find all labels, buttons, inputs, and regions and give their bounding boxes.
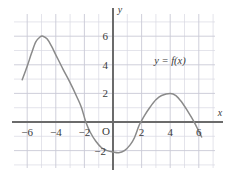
x-tick-label-4: 4 [167,126,173,138]
axis-lines [12,8,223,170]
graph-figure: −6−4−2246642−2Oyxy = f(x) [0,0,229,176]
y-axis-name: y [117,4,123,15]
x-tick-label--2: −2 [79,126,91,138]
function-graph-plot: −6−4−2246642−2Oyxy = f(x) [0,0,229,176]
y-tick-label-4: 4 [103,59,109,71]
axis-tick-labels: −6−4−2246642−2Oyxy = f(x) [21,4,222,157]
x-axis-name: x [217,107,223,118]
y-tick-label--2: −2 [94,145,106,157]
x-tick-label-2: 2 [139,126,145,138]
x-tick-label--4: −4 [50,126,62,138]
y-tick-label-6: 6 [103,30,109,42]
x-tick-label-6: 6 [196,126,202,138]
x-tick-label--6: −6 [21,126,33,138]
y-tick-label-2: 2 [103,87,109,99]
function-equation-label: y = f(x) [153,55,186,67]
origin-label: O [102,125,110,137]
